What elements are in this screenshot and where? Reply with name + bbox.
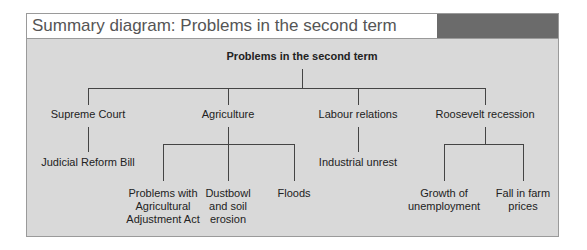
node-industrial-unrest: Industrial unrest — [319, 156, 397, 169]
node-fall-farm-prices: Fall in farm prices — [496, 187, 550, 213]
connector-farm-prices — [523, 144, 524, 181]
node-supreme-court: Supreme Court — [51, 108, 126, 121]
connector-judicial — [88, 127, 89, 152]
connector-dustbowl — [228, 144, 229, 181]
title-bar: Summary diagram: Problems in the second … — [27, 14, 558, 39]
header-decoration — [437, 14, 558, 38]
connector-recession-h — [444, 144, 523, 145]
connector-labour — [358, 88, 359, 105]
connector-industrial — [358, 127, 359, 152]
node-floods: Floods — [277, 187, 310, 200]
connector-recession — [485, 88, 486, 105]
connector-floods — [294, 144, 295, 181]
node-judicial-reform-bill: Judicial Reform Bill — [41, 156, 135, 169]
node-labour-relations: Labour relations — [319, 108, 398, 121]
connector-root — [302, 69, 303, 88]
diagram-title: Summary diagram: Problems in the second … — [32, 16, 397, 36]
connector-agriculture — [228, 88, 229, 105]
node-roosevelt-recession: Roosevelt recession — [435, 108, 534, 121]
connector-recession-down — [485, 127, 486, 144]
node-agriculture: Agriculture — [202, 108, 255, 121]
node-dustbowl: Dustbowl and soil erosion — [205, 187, 250, 226]
node-growth-unemployment: Growth of unemployment — [408, 187, 480, 213]
connector-level1 — [88, 88, 486, 89]
connector-agri-down — [228, 127, 229, 144]
connector-unemployment — [444, 144, 445, 181]
connector-supreme — [88, 88, 89, 105]
connector-aaa — [163, 144, 164, 181]
node-aaa-problems: Problems with Agricultural Adjustment Ac… — [126, 187, 199, 226]
root-node: Problems in the second term — [227, 50, 378, 63]
